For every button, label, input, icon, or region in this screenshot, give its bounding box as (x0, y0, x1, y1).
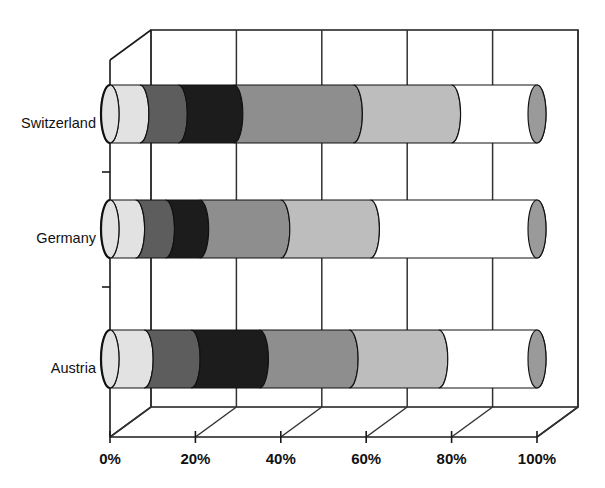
floor-connector-0 (110, 407, 151, 437)
stacked-bar-chart: 0%20%40%60%80%100%SwitzerlandGermanyAust… (0, 0, 605, 488)
floor-connector-80 (452, 407, 493, 437)
chart-container: 0%20%40%60%80%100%SwitzerlandGermanyAust… (0, 0, 605, 488)
x-tick-label-100: 100% (518, 450, 556, 467)
bar-segment-austria-3[interactable] (191, 330, 268, 388)
bar-end-cap-switzerland (528, 85, 546, 143)
bar-row-austria[interactable] (101, 330, 546, 388)
bar-segment-germany-6[interactable] (370, 200, 546, 258)
floor-connector-60 (366, 407, 407, 437)
bar-segment-germany-5[interactable] (281, 200, 380, 258)
x-tick-label-20: 20% (180, 450, 210, 467)
x-tick-label-80: 80% (437, 450, 467, 467)
bars-group (101, 85, 546, 388)
bar-segment-austria-5[interactable] (349, 330, 448, 388)
bar-row-germany[interactable] (101, 200, 546, 258)
category-label-switzerland: Switzerland (21, 115, 96, 131)
x-tick-label-60: 60% (351, 450, 381, 467)
floor-connector-20 (195, 407, 236, 437)
x-tick-label-0: 0% (99, 450, 121, 467)
y-axis-labels: SwitzerlandGermanyAustria (21, 115, 97, 376)
category-label-germany: Germany (36, 230, 96, 246)
bar-segment-switzerland-5[interactable] (353, 85, 460, 143)
bar-end-cap-germany (528, 200, 546, 258)
floor-connector-40 (281, 407, 322, 437)
depth-edge-top-left (110, 30, 151, 60)
x-tick-label-40: 40% (266, 450, 296, 467)
bar-segment-austria-4[interactable] (259, 330, 358, 388)
bar-row-switzerland[interactable] (101, 85, 546, 143)
bar-segment-switzerland-3[interactable] (178, 85, 243, 143)
category-label-austria: Austria (51, 360, 97, 376)
floor-connector-100 (537, 407, 578, 437)
bar-segment-switzerland-4[interactable] (234, 85, 363, 143)
bar-end-cap-austria (528, 330, 546, 388)
bar-segment-germany-4[interactable] (200, 200, 290, 258)
